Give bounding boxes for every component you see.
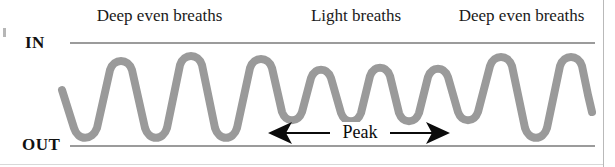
breathing-waveform: [62, 56, 592, 138]
figure-border-right: [603, 0, 604, 167]
peak-label: Peak: [330, 122, 390, 143]
diagram-canvas: [0, 0, 615, 167]
figure-border-bottom: [0, 164, 603, 165]
breathing-pattern-figure: IN OUT Deep even breaths Light breaths D…: [0, 0, 615, 167]
